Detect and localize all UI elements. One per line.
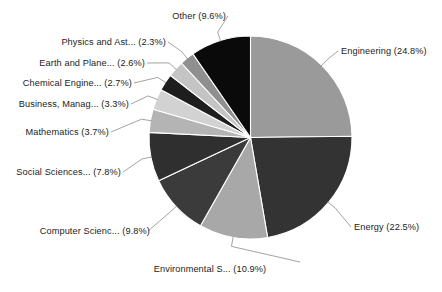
pie-label-other: Other (9.6%) [0,11,226,22]
pie-leader-line [111,119,151,132]
pie-leader-line [148,206,177,231]
pie-leader-line [123,157,152,172]
pie-label-earth-planetary: Earth and Plane... (2.6%) [0,58,145,69]
pie-leader-line [328,202,351,227]
pie-label-physics-astronomy: Physics and Ast... (2.3%) [0,37,166,48]
pie-leader-line [147,63,176,70]
pie-leader-line [321,51,338,66]
pie-label-energy: Energy (22.5%) [354,222,419,233]
pie-wedge-group [149,36,352,239]
pie-leader-line [134,77,166,83]
pie-leader-line [168,42,188,59]
pie-label-social-sciences: Social Sciences... (7.8%) [0,167,121,178]
pie-leader-line [131,96,157,104]
pie-label-engineering: Engineering (24.8%) [341,46,427,57]
pie-label-computer-science: Computer Scienc... (9.8%) [0,226,150,237]
pie-leader-line [232,237,301,263]
pie-label-business-management: Business, Manag... (3.3%) [0,99,129,110]
pie-wedge [251,36,352,138]
pie-label-mathematics: Mathematics (3.7%) [0,127,109,138]
pie-label-environmental-sciences: Environmental S... (10.9%) [100,264,320,275]
pie-chart-figure: Engineering (24.8%) Energy (22.5%) Envir… [0,0,442,292]
pie-wedge [251,136,352,237]
pie-label-chemical-engineering: Chemical Engine... (2.7%) [0,78,132,89]
